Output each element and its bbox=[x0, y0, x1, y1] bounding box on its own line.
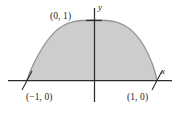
point-label-right-root: (1, 0) bbox=[127, 93, 148, 103]
point-label-left-root: (−1, 0) bbox=[26, 93, 53, 103]
figure-container: (0, 1) (−1, 0) (1, 0) x y bbox=[0, 0, 177, 116]
point-label-vertex: (0, 1) bbox=[50, 12, 71, 22]
x-axis-label: x bbox=[161, 67, 165, 76]
shaded-area-region bbox=[27, 20, 157, 80]
y-axis-label: y bbox=[98, 3, 102, 12]
